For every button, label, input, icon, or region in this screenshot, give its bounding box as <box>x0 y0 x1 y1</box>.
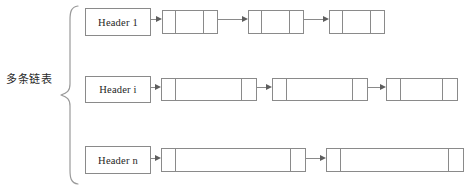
node-pointer-cell <box>352 79 367 100</box>
linked-list-diagram: 多条链表 Header 1Header iHeader n <box>0 0 472 191</box>
curly-brace-icon <box>58 4 80 186</box>
list-node <box>272 78 368 101</box>
node-data-cell <box>175 79 241 100</box>
node-pointer-cell <box>249 11 261 33</box>
list-node <box>162 10 218 34</box>
node-pointer-cell <box>203 11 217 33</box>
list-node <box>161 148 306 172</box>
list-node <box>248 10 304 34</box>
node-pointer-cell <box>290 149 305 171</box>
pointer-arrow-icon <box>304 16 329 23</box>
node-data-cell <box>340 149 448 171</box>
node-pointer-cell <box>442 79 457 100</box>
group-label: 多条链表 <box>6 73 58 87</box>
list-node <box>329 10 385 34</box>
node-data-cell <box>286 79 352 100</box>
node-pointer-cell <box>327 149 340 171</box>
node-pointer-cell <box>163 11 175 33</box>
node-pointer-cell <box>162 149 175 171</box>
pointer-arrow-icon <box>257 84 272 91</box>
pointer-arrow-icon <box>368 84 386 91</box>
node-data-cell <box>175 149 290 171</box>
header-box: Header 1 <box>85 8 151 36</box>
arrow-shaft <box>306 158 321 159</box>
node-pointer-cell <box>330 11 342 33</box>
node-data-cell <box>175 11 203 33</box>
node-data-cell <box>261 11 289 33</box>
node-pointer-cell <box>370 11 384 33</box>
node-pointer-cell <box>448 149 463 171</box>
node-data-cell <box>400 79 442 100</box>
pointer-arrow-icon <box>306 155 326 162</box>
arrow-shaft <box>218 19 243 20</box>
pointer-arrow-icon <box>218 16 248 23</box>
node-data-cell <box>342 11 370 33</box>
header-box: Header n <box>85 146 151 174</box>
node-pointer-cell <box>241 79 256 100</box>
arrow-shaft <box>304 19 324 20</box>
node-pointer-cell <box>162 79 175 100</box>
list-node <box>386 78 458 101</box>
list-node <box>326 148 464 172</box>
header-box: Header i <box>85 76 151 103</box>
pointer-arrow-icon <box>151 16 162 23</box>
pointer-arrow-icon <box>151 84 161 91</box>
node-pointer-cell <box>289 11 303 33</box>
node-pointer-cell <box>387 79 400 100</box>
node-pointer-cell <box>273 79 286 100</box>
list-node <box>161 78 257 101</box>
pointer-arrow-icon <box>151 155 161 162</box>
